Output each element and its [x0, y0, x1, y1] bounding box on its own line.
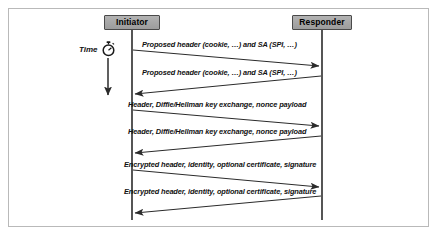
- message-arrow-4: [135, 136, 321, 153]
- actor-initiator-label: Initiator: [116, 17, 148, 27]
- message-arrow-5: [133, 170, 319, 187]
- actor-responder-label: Responder: [299, 17, 344, 27]
- time-axis-label: Time: [79, 45, 98, 54]
- message-label-2: Proposed header (cookie, …) and SA (SPI,…: [142, 68, 297, 77]
- message-arrow-2: [135, 76, 321, 94]
- message-label-6: Encrypted header, identity, optional cer…: [124, 187, 316, 196]
- message-arrow-1: [133, 50, 319, 66]
- message-arrow-6: [135, 196, 321, 213]
- actor-initiator: Initiator: [104, 15, 160, 30]
- message-label-4: Header, Diffie/Hellman key exchange, non…: [128, 127, 306, 136]
- message-label-3: Header, Diffie/Hellman key exchange, non…: [128, 100, 306, 109]
- message-label-1: Proposed header (cookie, …) and SA (SPI,…: [142, 40, 297, 49]
- actor-responder: Responder: [292, 15, 352, 30]
- figure-root: Initiator Responder Time Proposed header…: [0, 0, 438, 243]
- message-arrow-3: [133, 110, 319, 126]
- stopwatch-icon: [101, 41, 116, 57]
- message-label-5: Encrypted header, identity, optional cer…: [124, 160, 316, 169]
- sequence-diagram-canvas: [0, 0, 438, 243]
